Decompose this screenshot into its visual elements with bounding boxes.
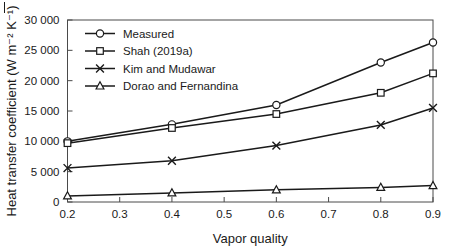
y-tick-label-0: 0 — [53, 196, 59, 208]
x-tick-label-7: 0.9 — [425, 208, 441, 220]
x-axis-title: Vapor quality — [213, 231, 288, 246]
series-0-point-2 — [273, 101, 280, 108]
series-1-point-1 — [169, 125, 176, 132]
x-tick-label-5: 0.7 — [321, 208, 337, 220]
legend-marker-1 — [97, 48, 104, 55]
y-axis-title: Heat transfer coefficient (W m⁻² K⁻¹) — [4, 6, 19, 217]
legend-label-0: Measured — [123, 28, 174, 40]
legend-label-1: Shah (2019a) — [123, 45, 193, 57]
x-tick-label-3: 0.5 — [216, 208, 232, 220]
series-1-point-0 — [64, 140, 71, 147]
legend-marker-0 — [96, 30, 103, 37]
x-tick-label-1: 0.3 — [112, 208, 128, 220]
legend-label-2: Kim and Mudawar — [123, 63, 216, 75]
x-tick-label-6: 0.8 — [373, 208, 389, 220]
line-chart: 05 00010 00015 00020 00025 00030 0000.20… — [0, 0, 457, 249]
y-tick-label-4: 20 000 — [24, 75, 59, 87]
series-0-point-3 — [377, 59, 384, 66]
x-tick-label-2: 0.4 — [164, 208, 181, 220]
y-tick-label-1: 5 000 — [31, 166, 60, 178]
y-tick-label-5: 25 000 — [24, 44, 59, 56]
y-tick-label-2: 10 000 — [24, 135, 59, 147]
legend-label-3: Dorao and Fernandina — [123, 80, 239, 92]
chart-figure: 05 00010 00015 00020 00025 00030 0000.20… — [0, 0, 457, 249]
series-1-point-4 — [430, 70, 437, 77]
series-0-point-4 — [429, 39, 436, 46]
series-1-point-2 — [273, 111, 280, 118]
x-tick-label-4: 0.6 — [268, 208, 284, 220]
y-tick-label-3: 15 000 — [24, 105, 59, 117]
x-tick-label-0: 0.2 — [60, 208, 76, 220]
y-tick-label-6: 30 000 — [24, 14, 59, 26]
crop-corner-mark — [4, 2, 5, 13]
series-1-point-3 — [377, 90, 384, 97]
